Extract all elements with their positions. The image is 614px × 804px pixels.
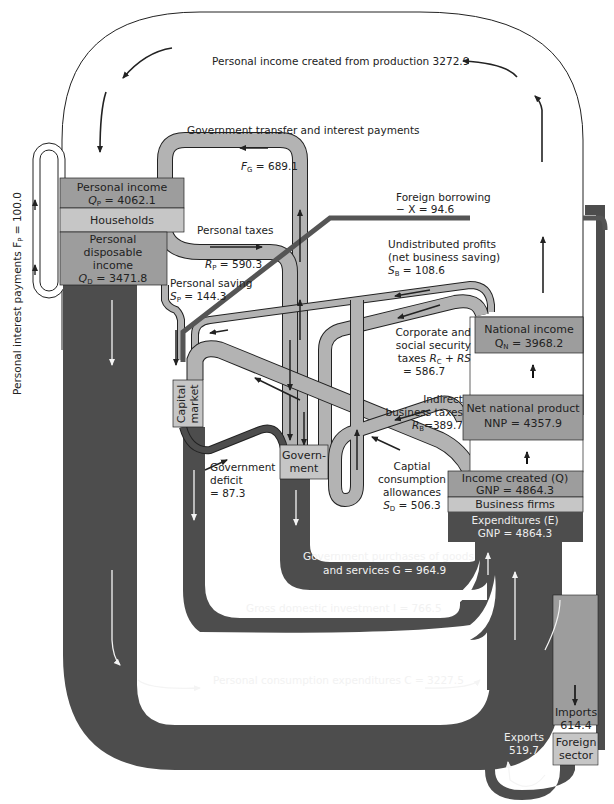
consumption-label: Personal consumption expenditures C = 32… [213,674,464,686]
personal-income-label: Personal income [77,181,168,194]
outer-arrow-left-down [100,92,106,152]
pdi-line3: income [93,259,134,272]
circular-flow-diagram: Personal income created from production … [0,0,614,804]
capital-market-line1: Capital [175,385,188,424]
exports-label: Exports [504,731,544,743]
outer-arrow-right-up [535,96,542,162]
national-income-label: National income [484,323,574,336]
gov-transfer-value: FG = 689.1 [241,160,298,174]
nnp-value: NNP = 4357.9 [484,417,562,430]
capital-consumption-line3: allowances [383,486,441,498]
outer-arrow-top-right [463,61,517,77]
gov-deficit-line1: Government [210,461,275,473]
government-line1: Govern- [282,449,326,462]
households-label: Households [90,214,154,227]
foreign-sector-line1: Foreign [556,736,597,749]
undistributed-arrow-2 [210,330,228,333]
corporate-taxes-line2: social security [396,339,471,351]
investment-label: Gross domestic investment I = 766.5 [246,602,442,614]
exports-value: 519.7 [509,744,539,756]
personal-taxes-label: Personal taxes [197,224,273,236]
outer-loop-label: Personal income created from production … [212,55,469,67]
indirect-taxes-line2: business taxes [386,406,463,418]
imports-label: Imports [555,706,598,719]
income-created-value: GNP = 4864.3 [476,484,554,497]
foreign-borrowing-label: Foreign borrowing [396,191,491,203]
corporate-taxes-line1: Corporate and [395,326,471,338]
gov-purchases-line1: Government purchases of goods [303,550,474,562]
undistributed-line1: Undistributed profits [388,238,496,250]
capital-consumption-line2: consumption [378,473,446,485]
interest-label: Personal interest payments FP = 100.0 [11,192,25,395]
nnp-label: Net national product [466,402,580,415]
personal-saving-label: Personal saving [170,277,252,289]
pdi-line2: disposable [84,246,143,259]
interest-loop-inner [40,150,58,291]
expenditures-label: Expenditures (E) [471,514,558,526]
gov-deficit-line2: deficit [210,474,243,486]
foreign-borrowing-value: − X = 94.6 [396,203,455,215]
corporate-taxes-line3: taxes RC + RS [398,352,472,366]
business-firms-label: Business firms [475,498,555,511]
capital-consumption-arrow-2 [372,437,400,450]
personal-taxes-value: RP = 590.3 [205,258,262,272]
indirect-taxes-value: RB=389.7 [412,419,463,433]
exports-arrow [508,762,545,786]
gov-transfer-label: Government transfer and interest payment… [187,124,420,136]
corporate-taxes-line4: = 586.7 [403,365,445,377]
foreign-sector-line2: sector [559,749,594,762]
consumption-arrow-right-1 [138,680,200,688]
personal-saving-value: SP = 144.3 [170,290,226,304]
government-line2: ment [290,462,319,475]
gov-deficit-line3: = 87.3 [210,487,246,499]
outer-arrow-top-left [123,48,172,78]
pdi-line1: Personal [90,233,137,246]
imports-value: 614.4 [560,719,592,732]
capital-consumption-value: SD = 506.3 [383,499,441,513]
capital-consumption-line1: Captial [394,460,431,472]
undistributed-value: SB = 108.6 [388,264,445,278]
consumption-right-column [487,540,562,690]
capital-market-line2: market [188,384,201,424]
expenditures-value: GNP = 4864.3 [478,527,553,539]
gov-purchases-line2: and services G = 964.9 [323,564,446,576]
undistributed-line2: (net business saving) [388,251,500,263]
indirect-taxes-line1: Indirect [423,393,463,405]
